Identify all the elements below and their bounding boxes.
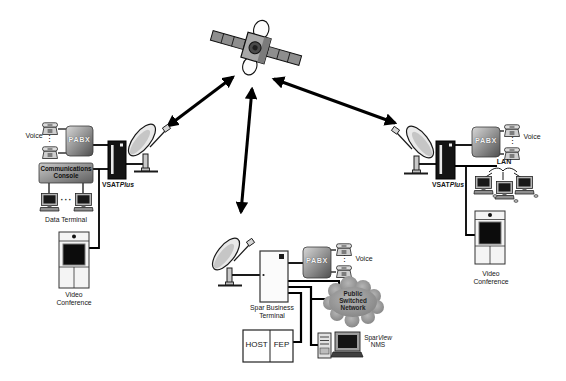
voice-label: Voice bbox=[350, 255, 378, 263]
vsat-plus-label: VSATPlus bbox=[100, 181, 136, 188]
pabx-label: PABX bbox=[472, 137, 500, 145]
voice-label: Voice bbox=[20, 132, 48, 140]
satellite-dish-icon bbox=[391, 122, 438, 174]
satellite-link-arrow-center bbox=[241, 89, 252, 212]
computer-icon bbox=[495, 182, 514, 200]
ellipsis-vertical: ⋮ bbox=[508, 137, 516, 146]
server-icon bbox=[318, 333, 331, 358]
fep-label: FEP bbox=[270, 341, 293, 350]
voice-label: Voice bbox=[518, 133, 546, 141]
sparview-nms-label: SparView NMS bbox=[360, 334, 396, 348]
computer-icon bbox=[515, 177, 534, 195]
video-conference-icon bbox=[475, 211, 505, 264]
telephone-icon bbox=[43, 147, 58, 159]
network-diagram: Voice ⋮ PABX Communications Console VSAT… bbox=[0, 0, 566, 381]
mouse-icon bbox=[514, 200, 518, 203]
telephone-icon bbox=[337, 266, 352, 278]
satellite-dish-icon bbox=[208, 234, 255, 286]
spar-business-terminal-label: Spar Business Terminal bbox=[242, 304, 302, 319]
ellipsis-vertical: ⋮ bbox=[45, 135, 53, 144]
lan-brace bbox=[489, 168, 517, 172]
satellite-link-arrow-left bbox=[168, 77, 233, 126]
video-conference-label: Video Conference bbox=[466, 270, 516, 285]
diagram-canvas bbox=[0, 0, 566, 381]
pabx-label: PABX bbox=[66, 136, 93, 144]
video-conference-label: Video Conference bbox=[49, 291, 99, 306]
vsat-label-stripe bbox=[111, 145, 114, 174]
computer-icon bbox=[474, 177, 493, 195]
satellite-icon bbox=[204, 8, 308, 88]
computer-icon bbox=[74, 194, 93, 212]
left-station bbox=[39, 120, 171, 288]
video-conference-icon bbox=[59, 232, 89, 288]
satellite-link-arrow-right bbox=[274, 79, 395, 123]
pabx-label: PABX bbox=[303, 257, 331, 265]
data-terminal-label: Data Terminal bbox=[37, 216, 95, 224]
vsat-plus-label: VSATPlus bbox=[430, 181, 466, 188]
connector-line bbox=[466, 166, 475, 235]
vsat-label-stripe bbox=[440, 145, 443, 174]
communications-console-label: Communications Console bbox=[39, 166, 93, 180]
vsat-plus-box bbox=[436, 141, 455, 179]
host-label: HOST bbox=[243, 341, 270, 350]
desktop-computer-icon bbox=[331, 332, 363, 357]
ellipsis-horizontal: ··· bbox=[60, 196, 73, 206]
vsat-plus-box bbox=[108, 141, 126, 179]
public-switched-network-label: Public Switched Network bbox=[331, 291, 375, 311]
mouse-icon bbox=[534, 195, 538, 198]
spar-business-terminal-box bbox=[260, 251, 288, 302]
lan-label: LAN bbox=[492, 158, 516, 166]
mouse-icon bbox=[493, 195, 497, 198]
computer-icon bbox=[40, 194, 59, 212]
ellipsis-vertical: ⋮ bbox=[340, 255, 348, 264]
